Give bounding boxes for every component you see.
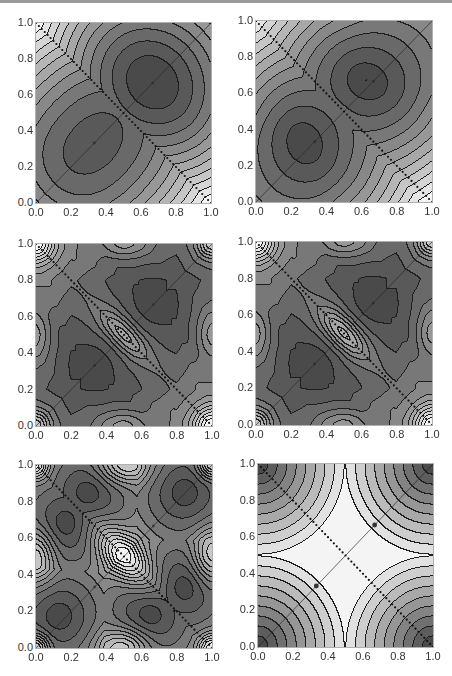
y-tick-label: 0.8 [11,496,33,507]
contour-canvas [256,242,432,425]
x-tick-label: 0.4 [314,206,338,217]
contour-canvas [36,244,212,426]
y-tick-label: 0.8 [231,273,253,284]
contour-canvas [36,465,212,648]
y-tick-label: 1.0 [233,458,255,469]
x-tick-label: 0.6 [129,207,153,218]
plot-area [35,243,213,427]
y-tick-label: 0.4 [11,569,33,580]
contour-canvas [36,23,211,203]
y-tick-label: 0.6 [11,532,33,543]
y-tick-label: 0.2 [231,160,253,171]
x-tick-label: 0.8 [164,207,188,218]
x-tick-label: 0.0 [24,652,48,663]
x-tick-label: 1.0 [200,430,224,441]
x-tick-label: 1.0 [420,206,444,217]
x-tick-label: 0.0 [244,429,268,440]
x-tick-label: 0.8 [385,429,409,440]
contour-canvas [256,21,432,202]
x-tick-label: 0.2 [59,652,83,663]
x-tick-label: 0.4 [94,207,118,218]
x-tick-label: 0.8 [386,651,410,662]
y-tick-label: 1.0 [231,15,253,26]
x-tick-label: 0.6 [350,206,374,217]
y-tick-label: 1.0 [231,236,253,247]
x-tick-label: 1.0 [200,652,224,663]
y-tick-label: 0.4 [11,125,33,136]
x-tick-label: 1.0 [421,651,445,662]
x-tick-label: 0.2 [281,651,305,662]
x-tick-label: 0.8 [165,430,189,441]
x-tick-label: 0.2 [279,429,303,440]
x-tick-label: 0.2 [59,207,83,218]
y-tick-label: 0.4 [231,346,253,357]
x-tick-label: 0.6 [130,652,154,663]
y-tick-label: 0.6 [11,89,33,100]
x-tick-label: 0.4 [316,651,340,662]
x-tick-label: 0.2 [59,430,83,441]
x-tick-label: 0.4 [94,430,118,441]
y-tick-label: 0.6 [231,87,253,98]
y-tick-label: 1.0 [11,238,33,249]
x-tick-label: 0.0 [244,206,268,217]
plot-area [255,20,433,203]
y-tick-label: 0.6 [11,311,33,322]
x-tick-label: 0.4 [94,652,118,663]
x-tick-label: 0.4 [314,429,338,440]
x-tick-label: 0.0 [24,430,48,441]
plot-area [257,463,434,648]
y-tick-label: 0.4 [231,124,253,135]
y-tick-label: 0.8 [233,495,255,506]
y-tick-label: 0.6 [231,309,253,320]
y-tick-label: 0.2 [233,604,255,615]
x-tick-label: 0.2 [279,206,303,217]
x-tick-label: 1.0 [199,207,223,218]
top-border [0,0,452,3]
y-tick-label: 0.4 [233,568,255,579]
y-tick-label: 0.2 [11,605,33,616]
contour-canvas [258,464,433,647]
x-tick-label: 0.0 [24,207,48,218]
y-tick-label: 0.4 [11,347,33,358]
plot-area [35,464,213,649]
y-tick-label: 0.2 [231,382,253,393]
x-tick-label: 0.8 [385,206,409,217]
x-tick-label: 1.0 [420,429,444,440]
y-tick-label: 1.0 [11,459,33,470]
y-tick-label: 1.0 [11,17,33,28]
y-tick-label: 0.8 [11,274,33,285]
x-tick-label: 0.6 [351,651,375,662]
x-tick-label: 0.6 [130,430,154,441]
y-tick-label: 0.8 [231,51,253,62]
y-tick-label: 0.2 [11,161,33,172]
x-tick-label: 0.0 [246,651,270,662]
plot-area [35,22,212,204]
y-tick-label: 0.2 [11,384,33,395]
y-tick-label: 0.8 [11,53,33,64]
x-tick-label: 0.6 [350,429,374,440]
x-tick-label: 0.8 [165,652,189,663]
plot-area [255,241,433,426]
y-tick-label: 0.6 [233,531,255,542]
